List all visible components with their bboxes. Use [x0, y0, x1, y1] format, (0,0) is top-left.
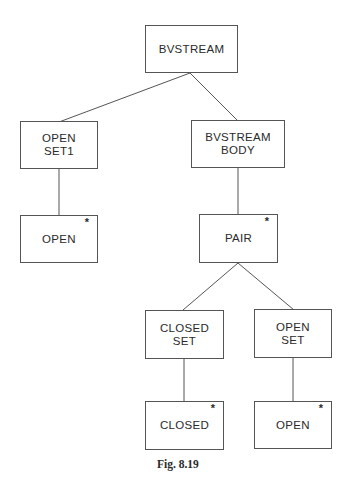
node-open-set: OPEN SET: [254, 309, 332, 358]
node-open-2: * OPEN: [254, 401, 332, 449]
node-label: OPEN: [42, 233, 76, 246]
iteration-asterisk-icon: *: [265, 216, 269, 227]
iteration-asterisk-icon: *: [85, 217, 89, 228]
edge-bvstream-openset1: [59, 73, 190, 122]
node-open: * OPEN: [20, 215, 98, 263]
node-label: OPEN: [276, 419, 310, 432]
node-label: OPEN SET: [276, 321, 310, 347]
node-label: BVSTREAM: [159, 43, 225, 56]
node-closed-set: CLOSED SET: [145, 310, 224, 359]
edge-bvstream-body: [190, 73, 238, 121]
node-label: CLOSED SET: [160, 322, 209, 348]
node-bvstream: BVSTREAM: [145, 25, 238, 73]
edge-pair-openset: [238, 263, 294, 310]
iteration-asterisk-icon: *: [211, 403, 215, 414]
node-closed: * CLOSED: [145, 401, 224, 450]
iteration-asterisk-icon: *: [319, 403, 323, 414]
node-bvstream-body: BVSTREAM BODY: [191, 120, 285, 168]
figure-caption: Fig. 8.19: [157, 458, 199, 470]
edge-pair-closedset: [183, 263, 238, 310]
node-pair: * PAIR: [199, 214, 278, 263]
node-label: PAIR: [225, 232, 252, 245]
node-label: BVSTREAM BODY: [205, 131, 271, 157]
node-open-set1: OPEN SET1: [20, 121, 98, 169]
node-label: OPEN SET1: [42, 132, 76, 158]
node-label: CLOSED: [160, 419, 209, 432]
